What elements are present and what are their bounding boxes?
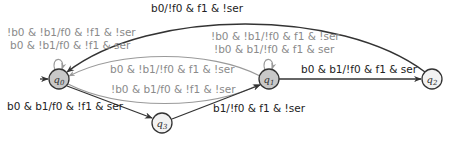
label-q0-q0-b: b0 & !b1/f0 & !f1 & ser <box>10 39 131 51</box>
state-q0[interactable]: q0 <box>49 69 69 89</box>
label-q1-q1-b: !b0 & b1/!f0 & f1 & ser <box>214 43 335 55</box>
label-q0-q1: !b0 & b1/f0 & !f1 & !ser <box>111 83 236 95</box>
state-diagram: q0 q1 q2 q3 b0/!f0 & f1 & !ser !b0 & !b1… <box>0 0 460 144</box>
state-q2[interactable]: q2 <box>422 69 442 89</box>
label-q0-q0-a: !b0 & !b1/f0 & !f1 & !ser <box>7 26 136 38</box>
label-q3-q1: b1/!f0 & f1 & !ser <box>213 102 306 114</box>
state-q1[interactable]: q1 <box>259 69 279 89</box>
state-q3[interactable]: q3 <box>152 113 172 133</box>
label-q1-q0: b0 & !b1/!f0 & f1 & !ser <box>110 63 235 75</box>
label-q2-q0: b0/!f0 & f1 & !ser <box>151 2 244 14</box>
label-q0-q3: b0 & b1/f0 & !f1 & ser <box>7 100 124 112</box>
label-q1-q2: b0 & b1/!f0 & f1 & ser <box>301 63 418 75</box>
label-q1-q1-a: !b0 & !b1/!f0 & f1 & !ser <box>211 30 340 42</box>
